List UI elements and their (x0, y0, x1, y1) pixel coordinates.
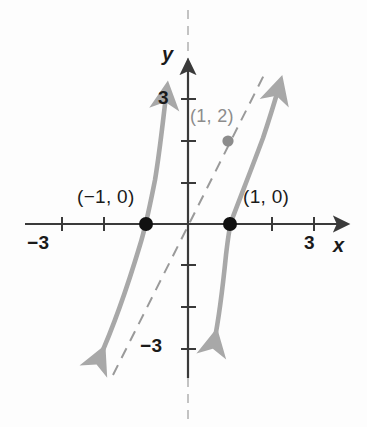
graph-figure: −3 3 3 −3 x y (−1, 0) (1, 0) (1, 2) (0, 0, 367, 427)
curve-left-branch (99, 96, 166, 359)
point-label-gray: (1, 2) (190, 107, 234, 125)
point-marker-left-intercept (139, 217, 153, 231)
plot-canvas (0, 0, 367, 427)
point-marker-right-intercept (223, 217, 237, 231)
y-axis-tick-label-neg3: −3 (140, 336, 163, 355)
point-label-right-intercept: (1, 0) (243, 187, 289, 206)
x-axis-name-label: x (333, 235, 344, 255)
y-axis-name-label: y (162, 44, 173, 64)
point-label-left-intercept: (−1, 0) (77, 187, 135, 206)
curve-right-branch (214, 90, 278, 343)
x-axis-tick-label-pos3: 3 (304, 233, 315, 252)
y-axis-tick-label-pos3: 3 (158, 88, 169, 107)
point-marker-gray (222, 135, 233, 146)
x-axis-tick-label-neg3: −3 (27, 233, 50, 252)
